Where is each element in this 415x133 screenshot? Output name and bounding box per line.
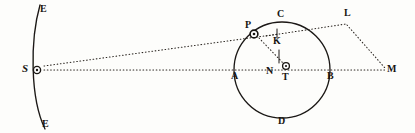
marker-s — [33, 66, 40, 73]
label-e-bottom: E — [42, 119, 49, 129]
label-p: P — [245, 20, 251, 30]
label-n: N — [266, 66, 273, 76]
label-m: M — [387, 64, 396, 74]
label-l: L — [344, 8, 351, 18]
sightline-l-to-m — [347, 25, 385, 68]
marker-p — [250, 30, 258, 38]
sightline-s-to-k — [44, 34, 279, 66]
label-e-top: E — [40, 4, 47, 14]
marker-t — [283, 63, 290, 70]
diagram-canvas — [0, 0, 415, 133]
label-t: T — [282, 72, 289, 82]
label-d: D — [278, 116, 285, 126]
astronomical-diagram-figure: E E S A B C D P K N T L M — [0, 0, 415, 133]
label-s: S — [22, 63, 28, 74]
label-a: A — [231, 71, 238, 81]
label-k: K — [273, 36, 281, 46]
label-c: C — [277, 9, 284, 19]
label-b: B — [327, 71, 334, 81]
